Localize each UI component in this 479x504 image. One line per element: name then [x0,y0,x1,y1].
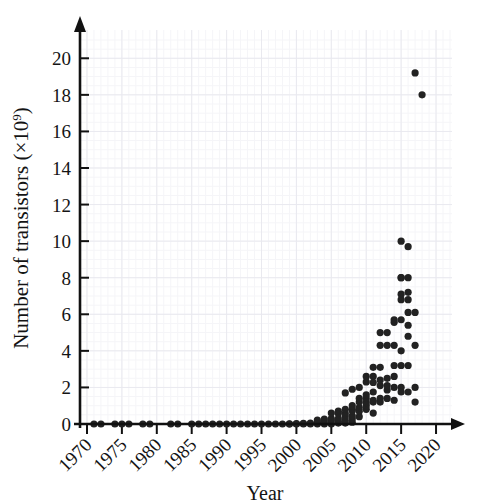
data-point [363,391,370,398]
data-point [370,373,377,380]
data-point [391,373,398,380]
data-point [405,243,412,250]
data-point [377,342,384,349]
y-tick-label: 14 [52,158,72,179]
data-point [405,388,412,395]
data-point [411,398,418,405]
data-point [349,402,356,409]
data-point [398,384,405,391]
y-tick-label: 0 [62,414,72,435]
data-point [398,316,405,323]
data-point [370,364,377,371]
data-point [405,289,412,296]
data-point [391,316,398,323]
data-point [370,388,377,395]
data-point [377,377,384,384]
y-tick-label: 4 [62,341,72,362]
data-point [335,408,342,415]
data-point [377,329,384,336]
x-axis-label: Year [247,482,284,504]
data-point [405,309,412,316]
data-point [411,309,418,316]
data-point [398,274,405,281]
data-point [349,386,356,393]
data-point [377,364,384,371]
data-point [342,389,349,396]
data-point [411,69,418,76]
data-point [405,296,412,303]
data-point [363,373,370,380]
data-point [384,375,391,382]
y-tick-label: 10 [52,231,71,252]
y-tick-label: 18 [52,85,71,106]
data-point [405,362,412,369]
y-axis-label: Number of transistors (×109) [9,107,33,349]
data-point [356,395,363,402]
y-tick-label: 2 [62,377,72,398]
data-point [405,322,412,329]
data-point [398,291,405,298]
data-point [398,362,405,369]
data-point [356,384,363,391]
chart-background [0,0,479,504]
data-point [321,415,328,422]
data-point [398,347,405,354]
data-point [377,395,384,402]
data-point [411,342,418,349]
data-point [384,395,391,402]
data-point [314,416,321,423]
data-point [370,409,377,416]
y-tick-label: 8 [62,268,72,289]
data-point [384,342,391,349]
y-tick-label: 20 [52,48,71,69]
data-point [384,329,391,336]
data-point [411,384,418,391]
y-tick-label: 16 [52,121,71,142]
data-point [405,333,412,340]
transistor-count-scatter-chart: 02468101214161820 1970197519801985199019… [0,0,479,504]
y-tick-label: 12 [52,195,71,216]
data-point [398,238,405,245]
data-point [342,406,349,413]
data-point [391,362,398,369]
data-point [370,397,377,404]
data-point [391,384,398,391]
data-point [405,274,412,281]
data-point [418,91,425,98]
data-point [328,409,335,416]
data-point [391,397,398,404]
data-point [384,382,391,389]
y-tick-label: 6 [62,304,72,325]
data-point [391,342,398,349]
